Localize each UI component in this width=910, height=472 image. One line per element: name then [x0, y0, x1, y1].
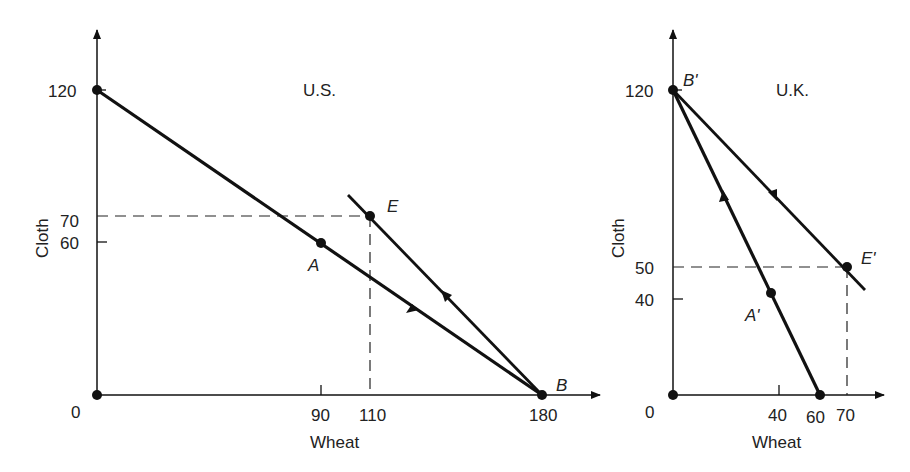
us-title: U.S.: [303, 81, 336, 100]
uk-x-label-40: 40: [768, 406, 787, 425]
uk-x-axis-title: Wheat: [752, 433, 801, 452]
us-label-a: A: [307, 256, 319, 275]
us-ppf-arrow-icon: [406, 304, 419, 313]
uk-title: U.K.: [776, 81, 809, 100]
us-point-b: [537, 390, 547, 400]
uk-trade-line: [673, 90, 865, 290]
uk-y-axis-title: Cloth: [609, 218, 628, 258]
us-panel: U.S. 120 70 60 0 90 110 180 Wheat Cloth …: [33, 30, 600, 452]
us-label-e: E: [387, 197, 399, 216]
us-y-label-120: 120: [48, 82, 76, 101]
uk-point-wheat-60: [815, 390, 825, 400]
us-point-cloth-120: [92, 85, 102, 95]
us-point-e: [365, 211, 375, 221]
uk-y-label-120: 120: [625, 82, 653, 101]
uk-origin-label: 0: [645, 403, 654, 422]
us-y-label-70: 70: [60, 212, 79, 231]
us-point-origin: [92, 390, 102, 400]
us-x-axis-title: Wheat: [310, 433, 359, 452]
us-x-label-180: 180: [529, 406, 557, 425]
uk-point-b-prime: [668, 85, 678, 95]
uk-point-e-prime: [842, 262, 852, 272]
uk-x-label-70: 70: [836, 406, 855, 425]
figure: U.S. 120 70 60 0 90 110 180 Wheat Cloth …: [0, 0, 910, 472]
uk-ppf-line: [673, 90, 820, 395]
uk-label-b-prime: B': [683, 71, 698, 90]
us-x-label-110: 110: [359, 406, 386, 425]
uk-y-label-40: 40: [635, 291, 654, 310]
us-x-label-90: 90: [311, 406, 330, 425]
uk-x-label-60: 60: [806, 408, 825, 427]
uk-panel: U.K. 120 50 40 0 40 60 70 Wheat Cloth A'…: [609, 30, 884, 452]
uk-y-label-50: 50: [635, 259, 654, 278]
uk-point-origin: [668, 390, 678, 400]
us-origin-label: 0: [71, 403, 80, 422]
uk-label-a-prime: A': [744, 306, 760, 325]
us-y-axis-title: Cloth: [33, 218, 52, 258]
uk-label-e-prime: E': [861, 249, 876, 268]
us-point-a: [316, 238, 326, 248]
us-label-b: B: [556, 376, 567, 395]
us-y-label-60: 60: [60, 234, 79, 253]
uk-point-a-prime: [766, 288, 776, 298]
